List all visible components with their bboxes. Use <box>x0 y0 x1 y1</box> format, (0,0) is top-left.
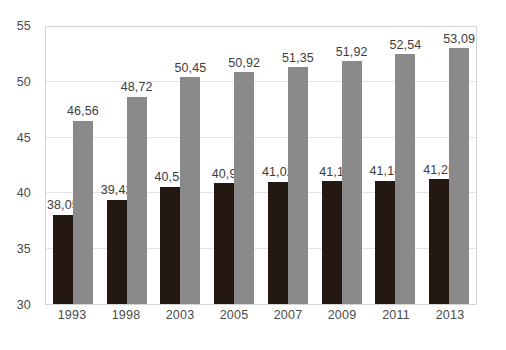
bar-group: 41,0251,35 <box>261 27 315 304</box>
bar-dark-series-2003[interactable]: 40,58 <box>160 187 180 304</box>
bar-group: 41,1452,54 <box>369 27 423 304</box>
y-tick-label: 50 <box>17 76 31 89</box>
bar-chart: 303540455055 38,0546,5639,4248,7240,5850… <box>0 0 506 350</box>
y-tick-label: 30 <box>17 299 31 312</box>
x-tick-label: 2009 <box>315 309 369 333</box>
x-tick-label: 2013 <box>423 309 477 333</box>
bar-value-label: 52,54 <box>389 39 421 52</box>
x-tick-label: 1993 <box>45 309 99 333</box>
bar-dark-series-2011[interactable]: 41,14 <box>375 181 395 304</box>
bar-gray-series-2011[interactable]: 52,54 <box>395 54 415 304</box>
x-tick-label: 2011 <box>369 309 423 333</box>
x-axis: 19931998200320052007200920112013 <box>45 309 477 333</box>
bar-group: 41,2553,09 <box>422 27 476 304</box>
bar-value-label: 40,9 <box>212 168 237 181</box>
bar-group: 39,4248,72 <box>100 27 154 304</box>
bar-dark-series-2007[interactable]: 41,02 <box>268 182 288 304</box>
x-tick-label: 2003 <box>153 309 207 333</box>
x-tick-label: 2005 <box>207 309 261 333</box>
y-axis: 303540455055 <box>0 26 40 305</box>
bar-group: 41,151,92 <box>315 27 369 304</box>
bar-group: 40,950,92 <box>207 27 261 304</box>
bar-gray-series-2013[interactable]: 53,09 <box>449 48 469 304</box>
bar-dark-series-2013[interactable]: 41,25 <box>429 179 449 304</box>
bar-value-label: 50,45 <box>174 62 206 75</box>
x-tick-label: 1998 <box>99 309 153 333</box>
bar-value-label: 53,09 <box>443 33 475 46</box>
bar-gray-series-2007[interactable]: 51,35 <box>288 67 308 304</box>
bar-gray-series-1998[interactable]: 48,72 <box>127 97 147 304</box>
bar-group: 40,5850,45 <box>154 27 208 304</box>
bar-value-label: 50,92 <box>228 57 260 70</box>
bar-gray-series-2009[interactable]: 51,92 <box>342 61 362 304</box>
bar-gray-series-2003[interactable]: 50,45 <box>180 77 200 304</box>
y-tick-label: 40 <box>17 187 31 200</box>
bar-dark-series-1998[interactable]: 39,42 <box>107 200 127 304</box>
y-tick-label: 55 <box>17 20 31 33</box>
bar-value-label: 41,1 <box>319 166 344 179</box>
bar-dark-series-2005[interactable]: 40,9 <box>214 183 234 304</box>
bar-dark-series-2009[interactable]: 41,1 <box>322 181 342 304</box>
bar-value-label: 51,35 <box>282 52 314 65</box>
bars-layer: 38,0546,5639,4248,7240,5850,4540,950,924… <box>46 27 476 304</box>
y-tick-label: 45 <box>17 131 31 144</box>
y-tick-label: 35 <box>17 243 31 256</box>
bar-dark-series-1993[interactable]: 38,05 <box>53 215 73 304</box>
x-tick-label: 2007 <box>261 309 315 333</box>
bar-group: 38,0546,56 <box>46 27 100 304</box>
bar-gray-series-2005[interactable]: 50,92 <box>234 72 254 304</box>
bar-gray-series-1993[interactable]: 46,56 <box>73 121 93 304</box>
bar-value-label: 51,92 <box>336 46 368 59</box>
bar-value-label: 46,56 <box>67 105 99 118</box>
plot-area: 38,0546,5639,4248,7240,5850,4540,950,924… <box>45 26 477 305</box>
bar-value-label: 48,72 <box>121 81 153 94</box>
